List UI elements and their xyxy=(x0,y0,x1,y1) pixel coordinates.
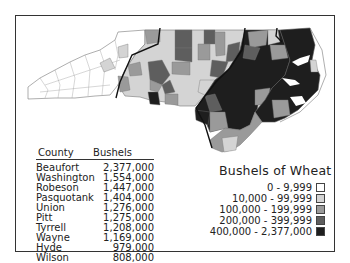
county-light xyxy=(222,136,238,152)
bushels-value: 808,000 xyxy=(113,253,154,263)
map-legend: Bushels of Wheat 0 - 9,999 10,000 - 99,9… xyxy=(205,163,335,237)
legend-swatch xyxy=(316,216,325,225)
legend-swatch xyxy=(316,227,325,236)
county-light xyxy=(310,60,318,72)
legend-swatch xyxy=(316,205,325,214)
legend-label: 100,000 - 199,999 xyxy=(219,204,312,215)
table-header: County Bushels xyxy=(36,147,154,160)
legend-item: 400,000 - 2,377,000 xyxy=(205,226,325,237)
legend-title: Bushels of Wheat xyxy=(219,163,335,178)
legend-label: 10,000 - 99,999 xyxy=(232,193,312,204)
legend-item: 100,000 - 199,999 xyxy=(205,204,325,215)
county-name: Wilson xyxy=(36,253,69,263)
column-header-county: County xyxy=(36,147,74,158)
legend-swatch xyxy=(316,183,325,192)
legend-item: 200,000 - 399,999 xyxy=(205,215,325,226)
legend-item: 0 - 9,999 xyxy=(205,182,325,193)
county-mid xyxy=(272,100,290,118)
legend-label: 400,000 - 2,377,000 xyxy=(210,226,312,237)
legend-label: 0 - 9,999 xyxy=(267,182,312,193)
column-header-bushels: Bushels xyxy=(93,147,154,158)
legend-item: 10,000 - 99,999 xyxy=(205,193,325,204)
top-counties-table: County Bushels Beaufort2,377,000 Washing… xyxy=(36,147,154,263)
legend-swatch xyxy=(316,194,325,203)
legend-label: 200,000 - 399,999 xyxy=(219,215,312,226)
table-row: Wilson808,000 xyxy=(36,253,154,263)
